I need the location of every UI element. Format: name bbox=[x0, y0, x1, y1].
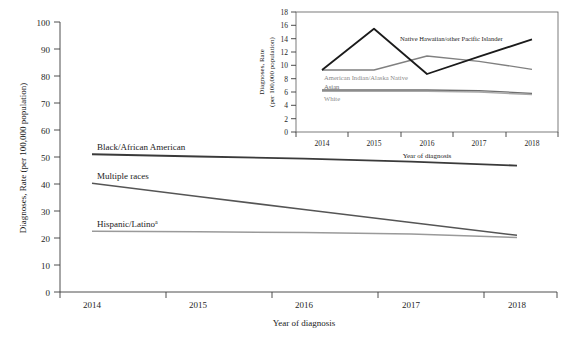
inset-x-tick-label: 2018 bbox=[525, 139, 540, 148]
main-y-tick-label: 80 bbox=[41, 72, 51, 82]
main-y-tick-label: 30 bbox=[41, 207, 51, 217]
figure-container: Diagnoses, Rate (per 100,000 population) bbox=[0, 0, 574, 339]
main-y-tick-label: 50 bbox=[41, 153, 51, 163]
main-series-label-hispanic-latino: Hispanic/Latinoa bbox=[97, 219, 158, 229]
inset-y-ticks bbox=[291, 12, 296, 132]
main-y-tick-label: 100 bbox=[37, 18, 51, 28]
inset-y-tick-label: 10 bbox=[281, 61, 289, 70]
inset-y-tick-label: 8 bbox=[284, 75, 288, 84]
inset-y-tick-label: 2 bbox=[284, 115, 288, 124]
main-x-tick-label: 2017 bbox=[402, 300, 421, 310]
inset-x-tick-labels: 2014 2015 2016 2017 2018 bbox=[315, 139, 540, 148]
inset-y-tick-labels: 18 16 14 12 10 8 6 4 2 0 bbox=[281, 8, 289, 137]
main-series-label-black-african-american: Black/African American bbox=[97, 142, 186, 152]
main-series-label-hispanic-latino-text: Hispanic/Latino bbox=[97, 219, 155, 229]
inset-x-ticks bbox=[296, 132, 558, 137]
inset-series-label-american-indian-alaska-native: American Indian/Alaska Native bbox=[324, 74, 408, 81]
main-series-line-multiple-races bbox=[92, 183, 517, 235]
main-y-tick-label: 70 bbox=[41, 99, 51, 109]
main-y-tick-label: 40 bbox=[41, 180, 51, 190]
main-series-label-multiple-races: Multiple races bbox=[97, 171, 149, 181]
main-series-label-hispanic-latino-superscript: a bbox=[155, 219, 158, 225]
main-y-tick-labels: 100 90 80 70 60 50 40 30 20 10 0 bbox=[37, 18, 51, 298]
inset-y-tick-label: 4 bbox=[284, 101, 288, 110]
inset-y-tick-label: 12 bbox=[281, 48, 289, 57]
main-series-line-hispanic-latino bbox=[92, 231, 517, 237]
inset-series-label-white: White bbox=[324, 95, 340, 102]
inset-x-tick-label: 2014 bbox=[315, 139, 330, 148]
inset-x-tick-label: 2017 bbox=[472, 139, 487, 148]
main-x-tick-labels: 2014 2015 2016 2017 2018 bbox=[83, 300, 527, 310]
main-x-tick-label: 2015 bbox=[189, 300, 208, 310]
inset-y-tick-label: 0 bbox=[284, 128, 288, 137]
main-series-line-black-african-american bbox=[92, 154, 517, 165]
main-x-tick-label: 2018 bbox=[508, 300, 527, 310]
inset-x-axis-title: Year of diagnosis bbox=[403, 152, 452, 160]
main-x-tick-label: 2014 bbox=[83, 300, 102, 310]
inset-y-tick-label: 16 bbox=[281, 21, 289, 30]
main-y-tick-label: 0 bbox=[46, 288, 51, 298]
main-y-tick-label: 90 bbox=[41, 45, 51, 55]
main-y-tick-label: 10 bbox=[41, 261, 51, 271]
inset-chart: Diagnoses, Rate (per 100,000 population)… bbox=[258, 8, 558, 160]
inset-x-tick-label: 2016 bbox=[420, 139, 435, 148]
main-x-ticks bbox=[60, 292, 557, 298]
inset-x-tick-label: 2015 bbox=[367, 139, 382, 148]
main-x-axis-title: Year of diagnosis bbox=[273, 318, 336, 328]
inset-series-label-native-hawaiian-other-pacific-islander: Native Hawaiian/other Pacific Islander bbox=[400, 35, 504, 42]
inset-y-axis-title-line1: Diagnoses, Rate bbox=[258, 49, 266, 95]
inset-y-tick-label: 14 bbox=[281, 35, 289, 44]
inset-series-label-asian: Asian bbox=[324, 83, 340, 90]
inset-y-tick-label: 18 bbox=[281, 8, 289, 17]
inset-plot-frame bbox=[296, 12, 558, 132]
inset-y-tick-label: 6 bbox=[284, 88, 288, 97]
inset-y-axis-title-line2: (per 100,000 population) bbox=[268, 36, 276, 106]
main-y-axis-title: Diagnoses, Rate (per 100,000 population) bbox=[18, 83, 28, 233]
chart-svg: Diagnoses, Rate (per 100,000 population) bbox=[0, 0, 574, 339]
main-y-tick-label: 20 bbox=[41, 234, 51, 244]
main-y-tick-label: 60 bbox=[41, 126, 51, 136]
main-x-tick-label: 2016 bbox=[295, 300, 314, 310]
main-y-ticks bbox=[54, 22, 60, 292]
